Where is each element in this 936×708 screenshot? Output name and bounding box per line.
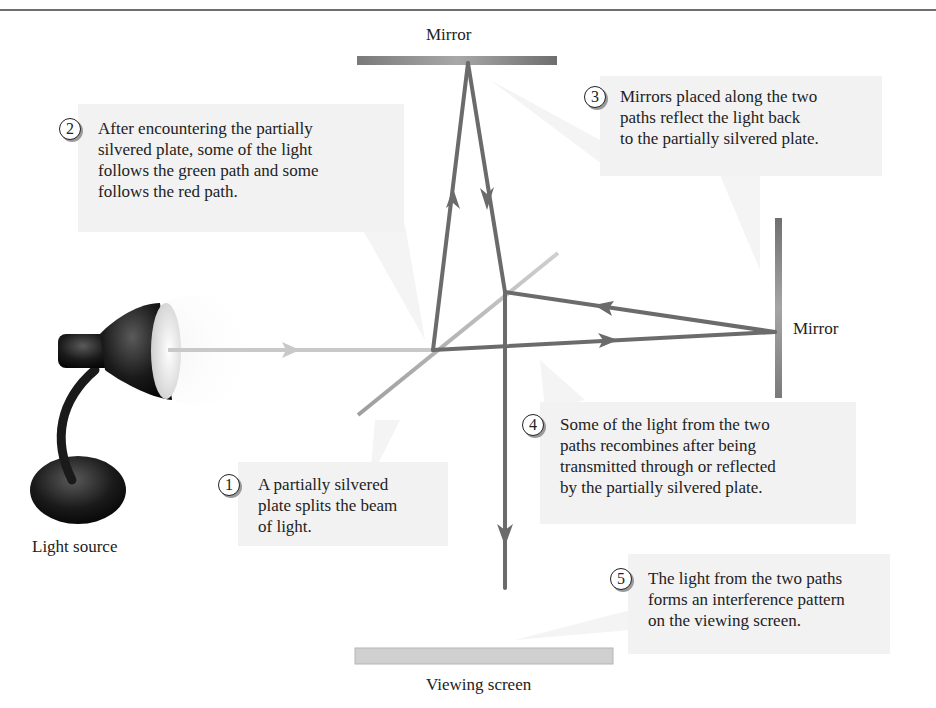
callout-5-text: The light from the two paths forms an in… <box>648 568 845 631</box>
step-number-2: 2 <box>59 118 81 140</box>
callout-5: 5 The light from the two paths forms an … <box>628 554 890 654</box>
light-source-label: Light source <box>32 537 117 557</box>
top-mirror <box>357 56 557 65</box>
step-number-5: 5 <box>610 568 632 590</box>
step-number-1: 1 <box>218 474 240 496</box>
top-mirror-label: Mirror <box>426 25 471 45</box>
callout-4: 4 Some of the light from the two paths r… <box>540 402 856 524</box>
step-number-4: 4 <box>522 414 544 436</box>
callout-2-text: After encountering the partially silvere… <box>98 118 318 202</box>
right-mirror <box>775 218 782 398</box>
callout-2: 2 After encountering the partially silve… <box>78 104 404 232</box>
right-mirror-label: Mirror <box>793 319 838 339</box>
partially-silvered-plate <box>358 253 558 415</box>
callout-1-text: A partially silvered plate splits the be… <box>258 474 397 537</box>
lamp-icon <box>30 303 181 524</box>
callout-3: 3 Mirrors placed along the two paths ref… <box>600 76 882 176</box>
callout-3-text: Mirrors placed along the two paths refle… <box>620 86 819 149</box>
callout-4-text: Some of the light from the two paths rec… <box>560 414 776 498</box>
viewing-screen <box>355 648 613 664</box>
callout-1: 1 A partially silvered plate splits the … <box>238 462 448 546</box>
viewing-screen-label: Viewing screen <box>426 675 531 695</box>
step-number-3: 3 <box>584 86 606 108</box>
